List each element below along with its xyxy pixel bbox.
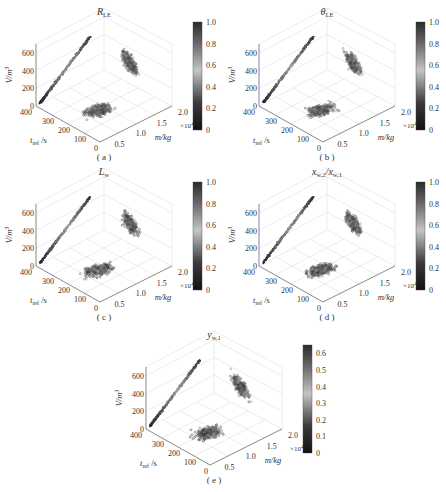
z-tick: 200: [22, 244, 34, 253]
z-tick: 400: [245, 67, 257, 76]
x-tick: 0.5: [114, 140, 124, 149]
x-tick: 1.0: [136, 289, 146, 298]
z-tick: 400: [22, 227, 34, 236]
x-tick: 1.0: [359, 129, 369, 138]
y-tick: 200: [168, 449, 180, 458]
x-tick: 0.5: [114, 300, 124, 309]
colorbar-tick: 0.8: [206, 40, 216, 49]
subplot-caption: ( d ): [320, 312, 335, 322]
x-tick: 1.0: [246, 452, 256, 461]
subplot-b: θLE0200400600V/m34003002001000tref /s0.5…: [223, 0, 446, 163]
colorbar-tick: 0: [316, 449, 320, 458]
z-tick: 400: [22, 67, 34, 76]
x-multiplier: ×104: [180, 121, 194, 130]
x-tick: 2.0: [401, 268, 411, 277]
x-axis-label: m/kg: [378, 292, 395, 302]
subplot-d: xw,2/xw,10200400600V/m34003002001000tref…: [223, 160, 446, 323]
colorbar-tick: 0.2: [429, 264, 439, 273]
y-tick: 400: [130, 431, 142, 440]
z-tick: 600: [132, 372, 144, 381]
x-tick: 1.5: [380, 119, 390, 128]
y-tick: 400: [20, 108, 32, 117]
colorbar-tick: 0.2: [316, 416, 326, 425]
x-tick: 2.0: [401, 108, 411, 117]
z-axis-label: V/m3: [227, 227, 237, 244]
x-multiplier: ×104: [403, 281, 417, 290]
z-axis-label: V/m3: [227, 67, 237, 84]
subplot-title: yw,1: [206, 329, 221, 341]
z-tick: 200: [245, 84, 257, 93]
colorbar-tick: 0.4: [206, 83, 216, 92]
z-tick: 200: [245, 244, 257, 253]
z-tick: 400: [245, 227, 257, 236]
x-tick: 1.5: [157, 279, 167, 288]
x-tick: 1.0: [136, 129, 146, 138]
subplot-title: Lw: [98, 166, 110, 178]
y-tick: 200: [58, 286, 70, 295]
z-tick: 400: [132, 390, 144, 399]
x-tick: 2.0: [178, 108, 188, 117]
y-tick: 400: [20, 268, 32, 277]
colorbar-tick: 0.2: [429, 104, 439, 113]
colorbar-tick: 0.4: [429, 83, 439, 92]
colorbar-tick: 0.6: [206, 221, 216, 230]
x-axis-label: m/kg: [378, 132, 395, 142]
y-tick: 200: [58, 126, 70, 135]
colorbar-tick: 0.8: [429, 40, 439, 49]
colorbar-tick: 0.2: [206, 104, 216, 113]
colorbar-tick: 0.8: [206, 200, 216, 209]
subplot-title: RLE: [96, 6, 111, 18]
colorbar-tick: 1.0: [429, 178, 439, 187]
y-axis-label: tref /s: [30, 135, 47, 146]
x-tick: 2.0: [178, 268, 188, 277]
y-tick: 300: [42, 117, 54, 126]
y-tick: 200: [281, 286, 293, 295]
scatter-points: [39, 196, 141, 280]
scatter-points: [262, 196, 362, 279]
subplot-caption: ( c ): [97, 312, 112, 322]
grid: [36, 168, 172, 293]
y-tick: 300: [42, 277, 54, 286]
colorbar-tick: 0.2: [206, 264, 216, 273]
colorbar-tick: 0.6: [429, 221, 439, 230]
z-tick: 600: [22, 49, 34, 58]
x-multiplier: ×104: [290, 444, 304, 453]
y-tick: 100: [184, 458, 196, 467]
colorbar-tick: 0: [429, 286, 433, 295]
x-tick: 0.5: [337, 140, 347, 149]
colorbar-tick: 0.6: [429, 61, 439, 70]
colorbar-tick: 1.0: [206, 178, 216, 187]
colorbar-tick: 0: [429, 126, 433, 135]
colorbar-tick: 0.8: [429, 200, 439, 209]
scatter-points: [149, 359, 252, 442]
z-axis-label: V/m3: [114, 390, 124, 407]
x-multiplier: ×104: [180, 281, 194, 290]
colorbar-tick: 0.6: [316, 349, 326, 358]
z-tick: 200: [22, 84, 34, 93]
x-tick: 0.5: [224, 463, 234, 472]
y-tick: 100: [297, 135, 309, 144]
x-tick: 1.5: [267, 442, 277, 451]
x-axis-label: m/kg: [265, 455, 282, 465]
z-tick: 200: [132, 407, 144, 416]
scatter-points: [262, 36, 364, 119]
colorbar-tick: 0: [206, 286, 210, 295]
colorbar-tick: 0.5: [316, 366, 326, 375]
y-tick: 400: [243, 108, 255, 117]
y-tick: 100: [74, 295, 86, 304]
z-axis-label: V/m3: [4, 227, 14, 244]
x-tick: 1.0: [359, 289, 369, 298]
x-tick: 1.5: [380, 279, 390, 288]
subplot-c: Lw0200400600V/m34003002001000tref /s0.51…: [0, 160, 223, 323]
colorbar: [416, 182, 425, 290]
z-axis-label: V/m3: [4, 67, 14, 84]
colorbar-tick: 0: [206, 126, 210, 135]
colorbar-tick: 1.0: [429, 18, 439, 27]
colorbar: [303, 345, 312, 453]
colorbar: [193, 182, 202, 290]
colorbar-tick: 0.3: [316, 399, 326, 408]
x-axis-label: m/kg: [155, 132, 172, 142]
subplot-title: θLE: [321, 6, 334, 18]
z-tick: 600: [245, 49, 257, 58]
subplot-caption: ( e ): [207, 475, 222, 485]
